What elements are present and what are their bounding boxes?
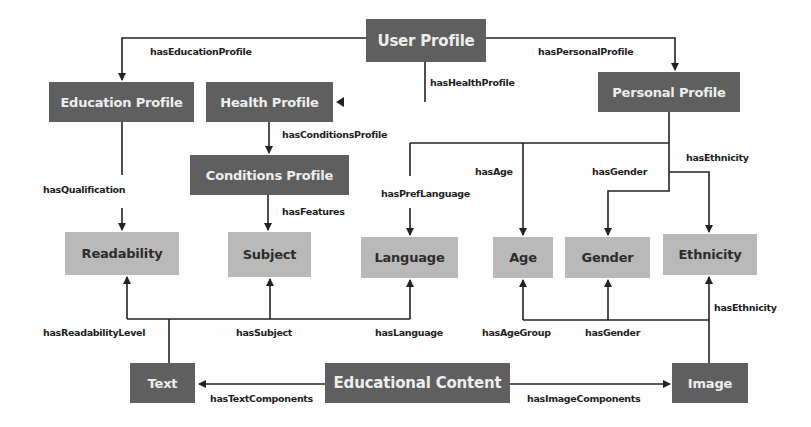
edge-label-has-subject: hasSubject <box>236 327 292 338</box>
edge-label-has-gender-top: hasGender <box>592 166 647 177</box>
node-language[interactable]: Language <box>361 237 458 278</box>
edge-label-has-qualification: hasQualification <box>43 184 125 195</box>
edge-label-has-language: hasLanguage <box>375 327 443 338</box>
edge-label-has-features: hasFeatures <box>282 206 345 217</box>
node-image[interactable]: Image <box>672 363 748 403</box>
edge-label-has-education-profile: hasEducationProfile <box>150 46 252 57</box>
ontology-diagram: User Profile Education Profile Health Pr… <box>0 0 811 427</box>
health-profile-arrow-icon <box>336 97 344 107</box>
node-subject[interactable]: Subject <box>228 232 311 277</box>
edge-label-has-image-components: hasImageComponents <box>527 393 640 404</box>
edge-label-has-ethnicity-top: hasEthnicity <box>686 152 749 163</box>
node-text[interactable]: Text <box>130 363 195 403</box>
edge-label-has-personal-profile: hasPersonalProfile <box>538 46 633 57</box>
node-conditions-profile[interactable]: Conditions Profile <box>190 155 349 195</box>
edge-label-has-readability-level: hasReadabilityLevel <box>43 327 145 338</box>
edge-label-has-text-components: hasTextComponents <box>210 393 313 404</box>
edge-label-has-conditions-profile: hasConditionsProfile <box>282 129 387 140</box>
edge-label-has-age-group: hasAgeGroup <box>482 327 551 338</box>
node-gender[interactable]: Gender <box>565 237 650 278</box>
edge-label-has-ethnicity-bottom: hasEthnicity <box>714 302 777 313</box>
node-health-profile[interactable]: Health Profile <box>206 82 333 122</box>
edge-label-has-age: hasAge <box>475 166 513 177</box>
node-personal-profile[interactable]: Personal Profile <box>598 72 740 112</box>
node-ethnicity[interactable]: Ethnicity <box>663 234 757 275</box>
node-education-profile[interactable]: Education Profile <box>49 82 194 122</box>
edge-label-has-health-profile: hasHealthProfile <box>430 77 515 88</box>
edge-label-has-gender-bottom: hasGender <box>585 327 640 338</box>
node-age[interactable]: Age <box>493 237 553 278</box>
node-educational-content[interactable]: Educational Content <box>325 363 510 403</box>
node-user-profile[interactable]: User Profile <box>366 19 486 62</box>
edge-label-has-pref-language: hasPrefLanguage <box>381 188 470 199</box>
node-readability[interactable]: Readability <box>65 232 179 275</box>
